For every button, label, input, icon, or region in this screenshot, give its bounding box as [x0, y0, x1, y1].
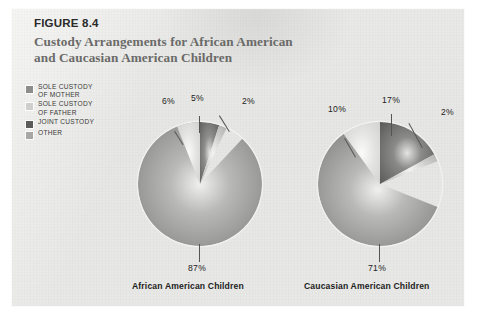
figure-panel: FIGURE 8.4 Custody Arrangements for Afri…: [12, 9, 464, 306]
legend-item-other: OTHER: [26, 129, 146, 139]
legend-label-line-1: OTHER: [38, 129, 62, 137]
pie-caption-african-american: African American Children: [132, 281, 244, 291]
figure-title-line-2: and Caucasian American Children: [34, 50, 364, 66]
legend-label-line-1: JOINT CUSTODY: [38, 118, 94, 126]
legend-swatch-icon-other: [26, 132, 33, 139]
legend-label-line-2: OF FATHER: [38, 109, 93, 117]
legend-label-line-1: SOLE CUSTODY: [38, 83, 93, 91]
pie-graphic-african-american: [138, 122, 262, 246]
pie-value-label-2-percent-right: 2%: [441, 107, 454, 117]
legend-item-sole-custody-of-father: SOLE CUSTODY OF FATHER: [26, 100, 146, 116]
legend-label-joint-custody: JOINT CUSTODY: [38, 118, 94, 126]
leader-line-5-percent: [199, 116, 200, 133]
figure-title-line-1: Custody Arrangements for African America…: [34, 34, 364, 50]
pie-caption-caucasian-american: Caucasian American Children: [304, 281, 430, 291]
pie-chart-african-american: 6% 5% 2% 87% African American Children: [138, 122, 318, 302]
legend-label-line-2: OF MOTHER: [38, 91, 93, 99]
pie-value-label-10-percent: 10%: [328, 104, 346, 114]
pie-value-label-87-percent: 87%: [188, 263, 206, 273]
legend-label-sole-custody-of-father: SOLE CUSTODY OF FATHER: [38, 100, 93, 116]
legend: SOLE CUSTODY OF MOTHER SOLE CUSTODY OF F…: [26, 83, 146, 140]
pie-value-label-71-percent: 71%: [368, 263, 386, 273]
legend-label-line-1: SOLE CUSTODY: [38, 100, 93, 108]
pie-value-label-5-percent: 5%: [191, 93, 204, 103]
legend-item-joint-custody: JOINT CUSTODY: [26, 118, 146, 128]
pie-svg-caucasian-american: [318, 122, 442, 246]
legend-swatch-icon-sole-custody-of-father: [26, 103, 33, 110]
leader-line-71-percent: [379, 244, 380, 262]
pie-value-label-6-percent: 6%: [162, 96, 175, 106]
pie-value-label-17-percent: 17%: [382, 95, 400, 105]
pie-svg-african-american: [138, 122, 262, 246]
legend-swatch-icon-joint-custody: [26, 121, 33, 128]
legend-label-sole-custody-of-mother: SOLE CUSTODY OF MOTHER: [38, 83, 93, 99]
legend-swatch-icon-sole-custody-of-mother: [26, 86, 33, 93]
figure-title: Custody Arrangements for African America…: [34, 34, 364, 66]
leader-line-17-percent: [391, 114, 392, 136]
pie-graphic-caucasian-american: [318, 122, 442, 246]
pie-value-label-2-percent: 2%: [242, 96, 255, 106]
legend-item-sole-custody-of-mother: SOLE CUSTODY OF MOTHER: [26, 83, 146, 99]
pie-chart-caucasian-american: 10% 17% 2% 71% Caucasian American Childr…: [318, 122, 477, 302]
legend-label-other: OTHER: [38, 129, 62, 137]
leader-line-87-percent: [199, 244, 200, 262]
figure-number: FIGURE 8.4: [34, 17, 99, 29]
